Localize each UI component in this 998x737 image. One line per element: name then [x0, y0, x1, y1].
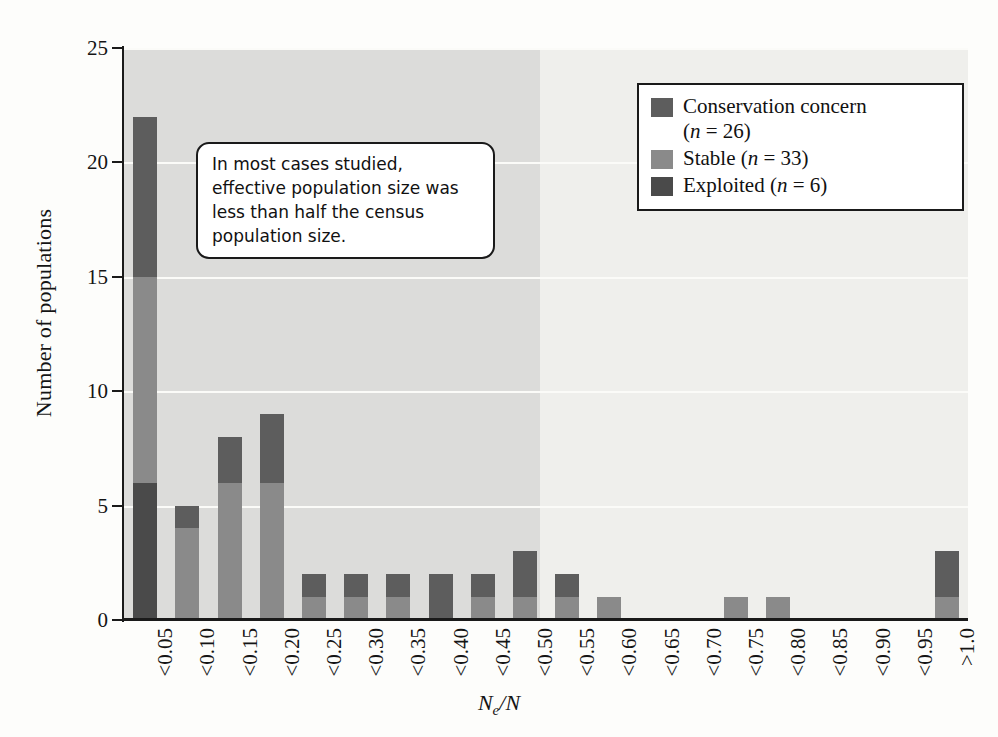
- bar-segment-conservation-concern: [386, 574, 410, 597]
- chart-figure: 0510152025 Number of populations <0.05<0…: [0, 0, 998, 737]
- legend-label: Conservation concern(n = 26): [683, 94, 867, 144]
- y-axis-title: Number of populations: [31, 33, 57, 593]
- bar-<0.55: [555, 574, 579, 620]
- gridline-15: [124, 277, 968, 279]
- y-tick-10: [112, 390, 124, 392]
- x-tick-label-<0.90: <0.90: [871, 628, 896, 737]
- y-tick-5: [112, 505, 124, 507]
- x-tick-label-<0.75: <0.75: [744, 628, 769, 737]
- bar-segment-stable: [513, 597, 537, 620]
- bar-segment-stable: [724, 597, 748, 620]
- legend-label: Exploited (n = 6): [683, 173, 827, 198]
- bar-segment-stable: [175, 528, 199, 620]
- bar-segment-conservation-concern: [429, 574, 453, 620]
- x-tick-label-<0.50: <0.50: [533, 628, 558, 737]
- callout-box: In most cases studied, effective populat…: [196, 142, 495, 259]
- bar-segment-conservation-concern: [302, 574, 326, 597]
- bar-<0.15: [218, 437, 242, 620]
- gridline-25: [124, 48, 968, 50]
- legend: Conservation concern(n = 26)Stable (n = …: [637, 83, 964, 211]
- x-axis-line: [122, 618, 968, 621]
- bar-segment-conservation-concern: [471, 574, 495, 597]
- bar-segment-stable: [133, 277, 157, 483]
- legend-swatch-icon: [651, 150, 673, 169]
- bar-segment-conservation-concern: [175, 506, 199, 529]
- bar-segment-stable: [260, 483, 284, 620]
- x-tick-label-<0.65: <0.65: [660, 628, 685, 737]
- bar-<0.30: [344, 574, 368, 620]
- y-tick-25: [112, 47, 124, 49]
- bar-segment-stable: [302, 597, 326, 620]
- bar-<0.25: [302, 574, 326, 620]
- bar-<0.05: [133, 117, 157, 620]
- x-tick-label->1.0: >1.0: [955, 628, 980, 737]
- bar-segment-exploited: [133, 483, 157, 620]
- bar-segment-stable: [218, 483, 242, 620]
- legend-item-exploited: Exploited (n = 6): [651, 173, 950, 198]
- bar-segment-stable: [344, 597, 368, 620]
- legend-item-stable: Stable (n = 33): [651, 146, 950, 171]
- x-tick-label-<0.25: <0.25: [322, 628, 347, 737]
- y-tick-20: [112, 161, 124, 163]
- x-tick-label-<0.85: <0.85: [828, 628, 853, 737]
- bar-segment-conservation-concern: [513, 551, 537, 597]
- legend-label: Stable (n = 33): [683, 146, 809, 171]
- gridline-5: [124, 506, 968, 508]
- y-tick-label-15: 15: [87, 264, 108, 289]
- x-tick-label-<0.35: <0.35: [406, 628, 431, 737]
- x-tick-label-<0.45: <0.45: [491, 628, 516, 737]
- bar-<0.10: [175, 506, 199, 620]
- x-axis-title-main: N: [478, 690, 493, 715]
- x-tick-label-<0.10: <0.10: [195, 628, 220, 737]
- y-tick-label-0: 0: [98, 608, 109, 633]
- x-tick-label-<0.05: <0.05: [153, 628, 178, 737]
- bar-segment-stable: [766, 597, 790, 620]
- bar-<0.45: [471, 574, 495, 620]
- bar-<0.20: [260, 414, 284, 620]
- bar-<0.75: [724, 597, 748, 620]
- x-axis-title: Ne/N: [0, 690, 998, 719]
- y-axis-line: [122, 46, 124, 622]
- legend-swatch-icon: [651, 177, 673, 196]
- bar-segment-conservation-concern: [935, 551, 959, 597]
- gridline-10: [124, 391, 968, 393]
- bar-<0.35: [386, 574, 410, 620]
- x-tick-label-<0.40: <0.40: [449, 628, 474, 737]
- bar->1.0: [935, 551, 959, 620]
- x-tick-label-<0.15: <0.15: [238, 628, 263, 737]
- x-axis-title-rest: /N: [499, 690, 520, 715]
- bar-<0.80: [766, 597, 790, 620]
- bar-<0.50: [513, 551, 537, 620]
- legend-item-conservation-concern: Conservation concern(n = 26): [651, 94, 950, 144]
- bar-segment-conservation-concern: [555, 574, 579, 597]
- x-tick-label-<0.20: <0.20: [280, 628, 305, 737]
- x-tick-label-<0.30: <0.30: [364, 628, 389, 737]
- y-tick-label-5: 5: [98, 493, 109, 518]
- bar-segment-stable: [935, 597, 959, 620]
- bar-segment-conservation-concern: [218, 437, 242, 483]
- x-tick-label-<0.55: <0.55: [575, 628, 600, 737]
- x-tick-label-<0.70: <0.70: [702, 628, 727, 737]
- bar-segment-stable: [471, 597, 495, 620]
- x-tick-label-<0.95: <0.95: [913, 628, 938, 737]
- bar-segment-stable: [597, 597, 621, 620]
- bar-<0.60: [597, 597, 621, 620]
- legend-swatch-icon: [651, 98, 673, 117]
- x-tick-label-<0.60: <0.60: [617, 628, 642, 737]
- y-tick-label-25: 25: [87, 36, 108, 61]
- y-tick-label-10: 10: [87, 379, 108, 404]
- y-tick-0: [112, 619, 124, 621]
- bar-<0.40: [429, 574, 453, 620]
- y-tick-15: [112, 276, 124, 278]
- x-tick-label-<0.80: <0.80: [786, 628, 811, 737]
- y-tick-label-20: 20: [87, 150, 108, 175]
- bar-segment-stable: [386, 597, 410, 620]
- bar-segment-stable: [555, 597, 579, 620]
- bar-segment-conservation-concern: [133, 117, 157, 277]
- bar-segment-conservation-concern: [344, 574, 368, 597]
- bar-segment-conservation-concern: [260, 414, 284, 483]
